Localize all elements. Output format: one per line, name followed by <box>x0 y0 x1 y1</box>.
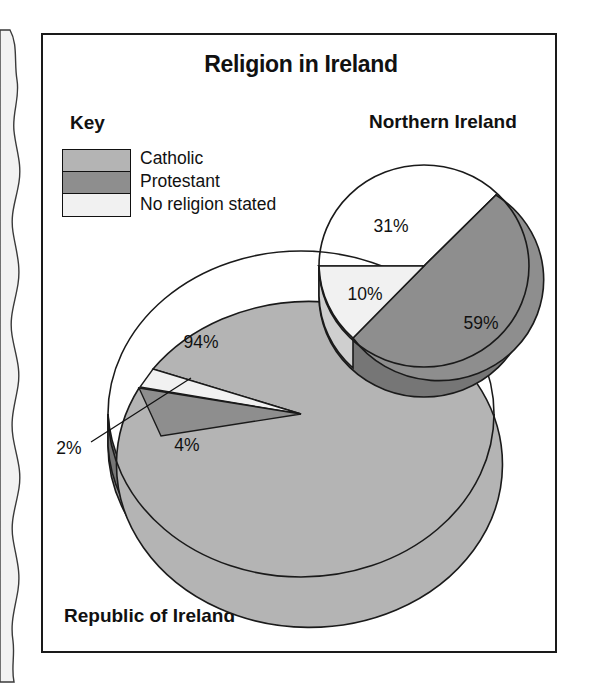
ni-value-none: 10% <box>347 284 382 304</box>
ni-value-catholic: 31% <box>373 216 408 236</box>
ni-value-protestant: 59% <box>463 313 498 333</box>
roi-value-protestant: 4% <box>174 435 199 455</box>
pie-charts: 94% 4% 2% <box>43 35 559 655</box>
figure-page: Religion in Ireland Key Catholic Protest… <box>0 0 591 686</box>
roi-value-none: 2% <box>56 438 81 458</box>
pie-northern-ireland: 31% 59% 10% <box>319 165 544 397</box>
torn-page-edge <box>0 0 26 686</box>
roi-value-catholic: 94% <box>183 332 218 352</box>
figure-frame: Religion in Ireland Key Catholic Protest… <box>41 33 557 653</box>
